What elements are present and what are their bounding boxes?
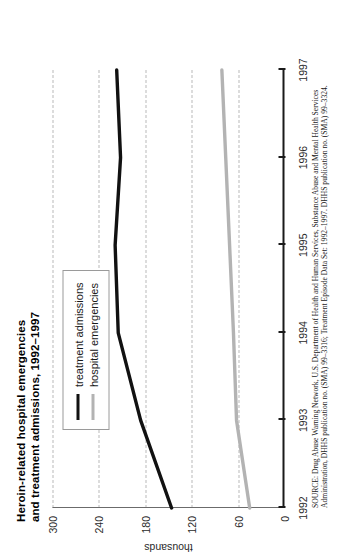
legend-item-hospital-emergencies: hospital emergencies xyxy=(85,282,100,420)
y-tick-label-240: 240 xyxy=(92,516,104,534)
y-tick-label-120: 120 xyxy=(185,516,197,534)
page-title: Heroin-related hospital emergencies and … xyxy=(14,92,41,522)
legend-item-treatment-admissions: treatment admissions xyxy=(70,282,85,420)
legend-label-hospital-emergencies: hospital emergencies xyxy=(87,283,99,387)
title-line-1: Heroin-related hospital emergencies xyxy=(14,92,28,522)
x-tick-label-1992: 1992 xyxy=(296,496,308,519)
legend-label-treatment-admissions: treatment admissions xyxy=(72,282,84,387)
source-note: SOURCE: Drug Abuse Warning Network, U.S.… xyxy=(310,38,329,508)
title-line-2: and treatment admissions, 1992–1997 xyxy=(28,92,42,522)
chart-legend: treatment admissions hospital emergencie… xyxy=(62,270,109,430)
y-tick-label-60: 60 xyxy=(232,516,244,528)
x-tick-label-1993: 1993 xyxy=(296,409,308,432)
black-line-swatch-icon xyxy=(76,394,79,420)
y-tick-label-300: 300 xyxy=(46,516,58,534)
line-treatment-admissions xyxy=(115,70,171,508)
y-axis-title: thousands xyxy=(144,542,192,554)
y-tick-label-0: 0 xyxy=(278,516,290,522)
x-tick-label-1997: 1997 xyxy=(296,58,308,81)
source-line-2: Administration, DHHS publication no. (SM… xyxy=(319,38,329,508)
x-tick-label-1996: 1996 xyxy=(296,146,308,169)
x-tick-label-1994: 1994 xyxy=(296,321,308,344)
x-tick-label-1995: 1995 xyxy=(296,234,308,257)
source-line-1: SOURCE: Drug Abuse Warning Network, U.S.… xyxy=(310,38,320,508)
gray-line-swatch-icon xyxy=(91,394,94,420)
y-tick-label-180: 180 xyxy=(139,516,151,534)
line-hospital-emergencies xyxy=(221,70,249,508)
